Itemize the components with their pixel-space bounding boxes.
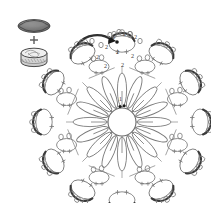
lens-highlight-icon xyxy=(23,21,45,27)
stitch-label-2d: 2 xyxy=(123,30,126,37)
stitch-label-2i: 2 xyxy=(121,61,124,68)
stitch-label-2b: 2 xyxy=(105,43,108,50)
round-label-1: 1 xyxy=(119,96,122,102)
stitch-label-2h: 2 xyxy=(104,62,107,69)
stitch-label-2a: 2 xyxy=(96,53,99,60)
crochet-motif-diagram: 1 2 2 2 2 2 2 2 2 2 xyxy=(0,0,211,203)
stitch-label-2f: 2 xyxy=(116,48,119,55)
magic-ring xyxy=(108,108,136,136)
chart-canvas: 1 2 2 2 2 2 2 2 2 2 xyxy=(0,0,211,203)
stitch-label-2e: 2 xyxy=(134,33,137,40)
stitch-label-2g: 2 xyxy=(131,52,134,59)
yarn-coil-icon xyxy=(21,48,47,66)
